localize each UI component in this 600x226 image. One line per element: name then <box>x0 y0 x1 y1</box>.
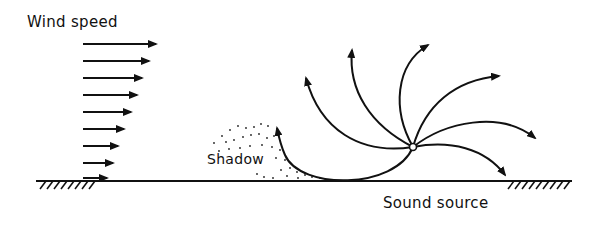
ray-2 <box>352 50 413 147</box>
wind-speed-label: Wind speed <box>27 13 118 31</box>
ground <box>36 181 572 189</box>
ground-hatching-right <box>508 181 570 189</box>
ray-5 <box>413 122 535 147</box>
shadow-label: Shadow <box>207 151 264 167</box>
sound-source-marker <box>410 144 417 151</box>
ray-6 <box>413 145 505 175</box>
diagram-canvas <box>0 0 600 226</box>
sound-source-label: Sound source <box>383 194 488 212</box>
wind-profile-arrows <box>83 44 156 178</box>
sound-rays <box>277 45 535 180</box>
ray-3 <box>400 45 428 147</box>
ray-4 <box>413 76 499 147</box>
ground-hatching-left <box>40 181 95 189</box>
